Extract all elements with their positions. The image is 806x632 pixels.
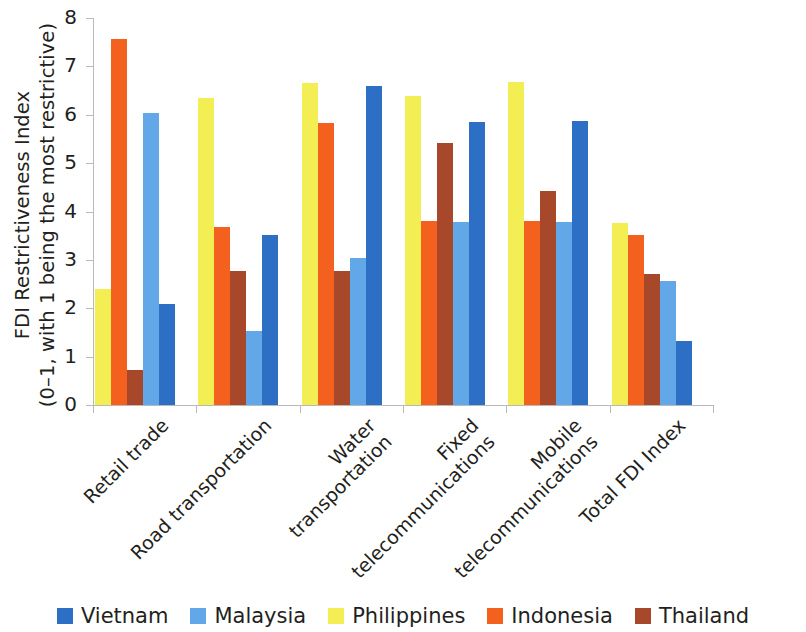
legend-swatch-icon bbox=[57, 608, 73, 624]
bar-vietnam-3 bbox=[469, 122, 485, 405]
x-tick bbox=[713, 405, 714, 413]
y-tick-label: 7 bbox=[64, 54, 77, 76]
bar-vietnam-0 bbox=[159, 304, 175, 405]
y-tick-5: 5 bbox=[86, 163, 93, 164]
bar-philippines-1 bbox=[198, 98, 214, 405]
x-tick bbox=[93, 405, 94, 413]
bar-vietnam-1 bbox=[262, 235, 278, 405]
bar-malaysia-2 bbox=[350, 258, 366, 405]
y-tick-label: 8 bbox=[64, 6, 77, 28]
y-axis-title: FDI Restrictiveness Index (0–1, with 1 b… bbox=[10, 15, 60, 415]
y-tick-label: 0 bbox=[64, 393, 77, 415]
bar-group bbox=[506, 18, 609, 405]
legend-item-vietnam[interactable]: Vietnam bbox=[57, 604, 169, 628]
legend-label: Philippines bbox=[352, 604, 465, 628]
y-tick-6: 6 bbox=[86, 115, 93, 116]
y-tick-0: 0 bbox=[86, 405, 93, 406]
bar-malaysia-0 bbox=[143, 113, 159, 405]
bar-thailand-1 bbox=[230, 271, 246, 405]
bar-thailand-2 bbox=[334, 271, 350, 405]
plot-area: 012345678 bbox=[93, 18, 713, 405]
bar-thailand-5 bbox=[644, 274, 660, 405]
bar-indonesia-5 bbox=[628, 235, 644, 405]
bar-malaysia-5 bbox=[660, 281, 676, 405]
bar-philippines-4 bbox=[508, 82, 524, 405]
bar-vietnam-2 bbox=[366, 86, 382, 405]
bar-indonesia-2 bbox=[318, 123, 334, 405]
y-tick-label: 5 bbox=[64, 151, 77, 173]
legend-swatch-icon bbox=[487, 608, 503, 624]
legend-swatch-icon bbox=[328, 608, 344, 624]
x-tick bbox=[506, 405, 507, 413]
bar-malaysia-1 bbox=[246, 331, 262, 405]
x-category-label: Retail trade bbox=[0, 414, 173, 614]
fdi-restrictiveness-bar-chart: FDI Restrictiveness Index (0–1, with 1 b… bbox=[0, 0, 806, 632]
bar-vietnam-5 bbox=[676, 341, 692, 405]
legend-label: Indonesia bbox=[511, 604, 613, 628]
y-tick-8: 8 bbox=[86, 18, 93, 19]
legend-item-malaysia[interactable]: Malaysia bbox=[190, 604, 306, 628]
bar-indonesia-3 bbox=[421, 221, 437, 405]
bar-philippines-2 bbox=[302, 83, 318, 405]
bar-group bbox=[403, 18, 506, 405]
bar-indonesia-0 bbox=[111, 39, 127, 405]
legend-item-thailand[interactable]: Thailand bbox=[635, 604, 749, 628]
bar-group bbox=[610, 18, 713, 405]
bar-indonesia-4 bbox=[524, 221, 540, 405]
y-tick-4: 4 bbox=[86, 212, 93, 213]
y-tick-label: 6 bbox=[64, 103, 77, 125]
x-tick bbox=[196, 405, 197, 413]
bar-group bbox=[196, 18, 299, 405]
y-tick-label: 3 bbox=[64, 248, 77, 270]
y-tick-label: 2 bbox=[64, 296, 77, 318]
bar-thailand-0 bbox=[127, 370, 143, 405]
legend-item-philippines[interactable]: Philippines bbox=[328, 604, 465, 628]
y-tick-2: 2 bbox=[86, 308, 93, 309]
legend-label: Vietnam bbox=[81, 604, 169, 628]
y-tick-label: 1 bbox=[64, 345, 77, 367]
y-tick-1: 1 bbox=[86, 357, 93, 358]
bar-thailand-4 bbox=[540, 191, 556, 405]
bar-philippines-5 bbox=[612, 223, 628, 405]
y-tick-3: 3 bbox=[86, 260, 93, 261]
legend-swatch-icon bbox=[190, 608, 206, 624]
y-tick-label: 4 bbox=[64, 200, 77, 222]
bar-malaysia-4 bbox=[556, 222, 572, 405]
x-axis-category-labels: Retail tradeRoad transportationWater tra… bbox=[93, 414, 793, 604]
x-tick bbox=[610, 405, 611, 413]
bar-philippines-0 bbox=[95, 289, 111, 405]
x-tick bbox=[300, 405, 301, 413]
x-tick bbox=[403, 405, 404, 413]
bar-group bbox=[300, 18, 403, 405]
legend-swatch-icon bbox=[635, 608, 651, 624]
bar-group bbox=[93, 18, 196, 405]
bar-philippines-3 bbox=[405, 96, 421, 405]
bar-indonesia-1 bbox=[214, 227, 230, 405]
bar-vietnam-4 bbox=[572, 121, 588, 405]
y-tick-7: 7 bbox=[86, 66, 93, 67]
legend-label: Thailand bbox=[659, 604, 749, 628]
bar-thailand-3 bbox=[437, 143, 453, 405]
bar-malaysia-3 bbox=[453, 222, 469, 405]
legend: VietnamMalaysiaPhilippinesIndonesiaThail… bbox=[0, 604, 806, 628]
legend-label: Malaysia bbox=[214, 604, 306, 628]
legend-item-indonesia[interactable]: Indonesia bbox=[487, 604, 613, 628]
